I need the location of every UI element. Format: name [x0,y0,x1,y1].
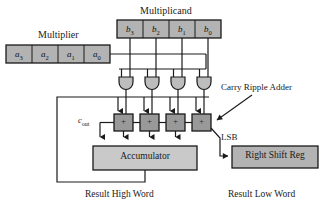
adder-sum-outputs [124,131,176,137]
carry-ripple-adder-arrow [217,95,252,120]
multiplicand-bit-b0: b0 [204,25,212,36]
right-shift-reg-label: Right Shift Reg [232,151,318,161]
adder-cell-3-symbol: + [114,118,133,126]
figure-root: Multiplier Multiplicand a3 a2 a1 a0 b3 b… [0,0,324,208]
multiplier-bit-a1: a1 [67,50,75,61]
multiplicand-title: Multiplicand [140,6,192,16]
adder-cell-2-symbol: + [140,118,159,126]
multiplier-bus [110,54,206,77]
cout-label: cout [78,116,89,127]
carry-ripple-adder-annotation: Carry Ripple Adder [221,83,292,92]
multiplier-title: Multiplier [38,30,79,40]
accumulator-label: Accumulator [93,152,197,162]
multiplicand-drops [130,38,208,77]
multiplicand-bit-b3: b3 [126,25,134,36]
adder-cell-1-symbol: + [166,118,185,126]
multiplier-bit-a0: a0 [93,50,101,61]
feedback-drops [118,97,196,111]
multiplicand-bit-b2: b2 [152,25,160,36]
multiplicand-bit-b1: b1 [178,25,186,36]
multiplier-bit-a3: a3 [15,50,23,61]
lsb-label: LSB [221,133,238,142]
result-low-word-label: Result Low Word [228,190,295,200]
multiplier-bit-a2: a2 [41,50,49,61]
adder-cell-0-symbol: + [192,118,211,126]
result-high-word-label: Result High Word [85,190,154,200]
